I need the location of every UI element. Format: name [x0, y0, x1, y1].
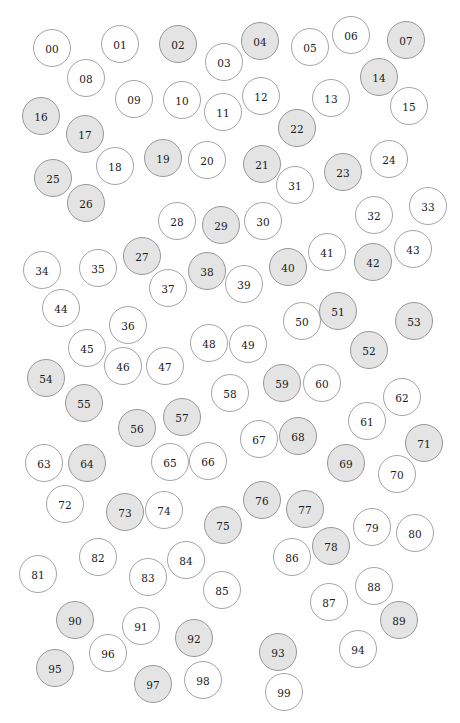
- node-05[interactable]: 05: [292, 29, 329, 66]
- node-23[interactable]: 23: [325, 154, 362, 191]
- node-79[interactable]: 79: [354, 509, 391, 546]
- node-81[interactable]: 81: [20, 556, 57, 593]
- node-68[interactable]: 68: [280, 418, 317, 455]
- node-97[interactable]: 97: [135, 666, 172, 703]
- node-29[interactable]: 29: [203, 207, 240, 244]
- node-80[interactable]: 80: [397, 515, 434, 552]
- node-14[interactable]: 14: [361, 59, 398, 96]
- node-24[interactable]: 24: [371, 141, 408, 178]
- node-30[interactable]: 30: [245, 203, 282, 240]
- node-35[interactable]: 35: [80, 250, 117, 287]
- node-57[interactable]: 57: [164, 399, 201, 436]
- node-67[interactable]: 67: [241, 421, 278, 458]
- node-20[interactable]: 20: [189, 142, 226, 179]
- node-13[interactable]: 13: [313, 80, 350, 117]
- node-98[interactable]: 98: [185, 662, 222, 699]
- node-86[interactable]: 86: [274, 539, 311, 576]
- node-06[interactable]: 06: [333, 17, 370, 54]
- node-46[interactable]: 46: [105, 348, 142, 385]
- node-64[interactable]: 64: [69, 445, 106, 482]
- node-39[interactable]: 39: [226, 266, 263, 303]
- node-82[interactable]: 82: [80, 539, 117, 576]
- node-71[interactable]: 71: [406, 425, 443, 462]
- node-45[interactable]: 45: [69, 330, 106, 367]
- node-19[interactable]: 19: [145, 140, 182, 177]
- node-51[interactable]: 51: [320, 293, 357, 330]
- node-96[interactable]: 96: [90, 635, 127, 672]
- node-56[interactable]: 56: [119, 410, 156, 447]
- node-11[interactable]: 11: [205, 94, 242, 131]
- node-42[interactable]: 42: [355, 244, 392, 281]
- node-88[interactable]: 88: [356, 568, 393, 605]
- node-78[interactable]: 78: [313, 528, 350, 565]
- node-08[interactable]: 08: [68, 60, 105, 97]
- node-41[interactable]: 41: [309, 234, 346, 271]
- node-92[interactable]: 92: [176, 620, 213, 657]
- node-85[interactable]: 85: [204, 572, 241, 609]
- node-87[interactable]: 87: [311, 584, 348, 621]
- node-55[interactable]: 55: [66, 385, 103, 422]
- node-84[interactable]: 84: [168, 542, 205, 579]
- node-65[interactable]: 65: [152, 444, 189, 481]
- node-58[interactable]: 58: [212, 375, 249, 412]
- node-76[interactable]: 76: [244, 482, 281, 519]
- node-52[interactable]: 52: [351, 332, 388, 369]
- node-18[interactable]: 18: [97, 148, 134, 185]
- node-44[interactable]: 44: [43, 290, 80, 327]
- node-22[interactable]: 22: [279, 110, 316, 147]
- node-26[interactable]: 26: [68, 185, 105, 222]
- node-74[interactable]: 74: [146, 492, 183, 529]
- node-72[interactable]: 72: [47, 486, 84, 523]
- node-95[interactable]: 95: [37, 650, 74, 687]
- node-16[interactable]: 16: [23, 98, 60, 135]
- node-38[interactable]: 38: [189, 253, 226, 290]
- node-03[interactable]: 03: [206, 44, 243, 81]
- node-43[interactable]: 43: [395, 231, 432, 268]
- node-75[interactable]: 75: [205, 507, 242, 544]
- node-54[interactable]: 54: [28, 360, 65, 397]
- node-00[interactable]: 00: [34, 30, 71, 67]
- node-91[interactable]: 91: [123, 608, 160, 645]
- node-27[interactable]: 27: [124, 238, 161, 275]
- node-01[interactable]: 01: [102, 26, 139, 63]
- node-02[interactable]: 02: [160, 26, 197, 63]
- node-77[interactable]: 77: [287, 491, 324, 528]
- node-10[interactable]: 10: [164, 82, 201, 119]
- node-69[interactable]: 69: [328, 445, 365, 482]
- node-32[interactable]: 32: [356, 197, 393, 234]
- node-37[interactable]: 37: [150, 270, 187, 307]
- node-07[interactable]: 07: [388, 22, 425, 59]
- node-09[interactable]: 09: [116, 81, 153, 118]
- node-73[interactable]: 73: [107, 494, 144, 531]
- node-28[interactable]: 28: [159, 203, 196, 240]
- node-83[interactable]: 83: [130, 559, 167, 596]
- node-21[interactable]: 21: [244, 146, 281, 183]
- node-50[interactable]: 50: [284, 303, 321, 340]
- node-12[interactable]: 12: [243, 78, 280, 115]
- node-17[interactable]: 17: [67, 116, 104, 153]
- node-15[interactable]: 15: [391, 88, 428, 125]
- node-93[interactable]: 93: [260, 634, 297, 671]
- node-70[interactable]: 70: [379, 456, 416, 493]
- node-66[interactable]: 66: [190, 443, 227, 480]
- node-62[interactable]: 62: [384, 379, 421, 416]
- node-53[interactable]: 53: [396, 303, 433, 340]
- node-61[interactable]: 61: [349, 403, 386, 440]
- node-04[interactable]: 04: [242, 23, 279, 60]
- node-34[interactable]: 34: [24, 252, 61, 289]
- node-59[interactable]: 59: [264, 365, 301, 402]
- node-36[interactable]: 36: [110, 307, 147, 344]
- node-60[interactable]: 60: [304, 365, 341, 402]
- node-48[interactable]: 48: [191, 325, 228, 362]
- node-31[interactable]: 31: [277, 167, 314, 204]
- node-40[interactable]: 40: [270, 249, 307, 286]
- node-33[interactable]: 33: [410, 188, 447, 225]
- node-94[interactable]: 94: [340, 631, 377, 668]
- node-63[interactable]: 63: [26, 445, 63, 482]
- node-90[interactable]: 90: [57, 602, 94, 639]
- node-47[interactable]: 47: [147, 348, 184, 385]
- node-89[interactable]: 89: [381, 602, 418, 639]
- node-99[interactable]: 99: [266, 674, 303, 711]
- node-25[interactable]: 25: [35, 160, 72, 197]
- node-49[interactable]: 49: [230, 326, 267, 363]
